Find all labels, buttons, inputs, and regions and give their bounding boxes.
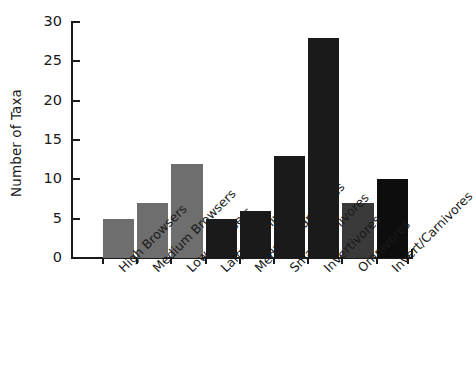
y-tick-label: 20 [6,93,62,108]
bar [137,203,168,258]
bar [274,156,305,258]
y-tick-label: 5 [6,211,62,226]
x-tick-mark [170,259,172,264]
bar [206,219,237,258]
x-tick-mark [102,259,104,264]
x-tick-mark [136,259,138,264]
bar [171,164,202,258]
bar [103,219,134,258]
x-tick-mark [239,259,241,264]
y-tick-label: 10 [6,171,62,186]
bar-series [71,22,412,258]
bar [308,38,339,258]
bar [342,203,373,258]
y-tick-label: 25 [6,53,62,68]
x-tick-mark [407,259,409,264]
bar [240,211,271,258]
plot-area [71,22,412,258]
x-tick-mark [205,259,207,264]
x-tick-mark [273,259,275,264]
bar [377,179,408,258]
x-tick-mark [307,259,309,264]
x-tick-mark [376,259,378,264]
y-tick-label: 15 [6,132,62,147]
y-tick-label: 30 [6,14,62,29]
x-tick-mark [341,259,343,264]
y-tick-label: 0 [6,250,62,265]
